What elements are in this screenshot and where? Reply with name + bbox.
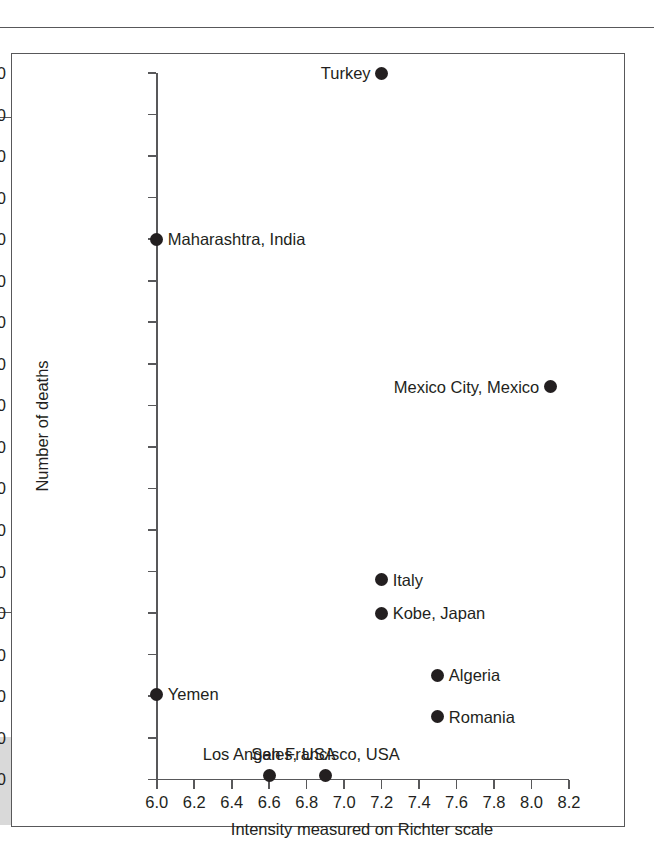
- x-axis-tick-label: 8.2: [558, 793, 581, 812]
- x-axis-tick: [418, 780, 420, 789]
- y-axis-tick-label: 4000: [0, 604, 12, 623]
- y-axis-tick-label: 3000: [0, 645, 12, 664]
- y-axis-tick-label: 2000: [0, 687, 12, 706]
- scatter-point-label: Maharashtra, India: [168, 230, 306, 249]
- x-axis-tick: [231, 780, 233, 789]
- scatter-point-label: Mexico City, Mexico: [394, 377, 539, 396]
- y-axis-tick: [148, 654, 156, 656]
- scatter-point-marker: [319, 769, 332, 782]
- y-axis-tick-label: 16 000: [0, 105, 12, 124]
- plot-area: 010002000300040005000600070008000900010 …: [12, 54, 624, 826]
- x-axis-tick-label: 6.0: [145, 793, 168, 812]
- y-axis-tick: [148, 280, 156, 282]
- y-axis-tick: [148, 321, 156, 323]
- scatter-point-marker: [431, 710, 444, 723]
- x-axis-tick: [306, 780, 308, 789]
- y-axis-tick-label: 0: [0, 770, 12, 789]
- y-axis-tick: [148, 612, 156, 614]
- scatter-point-label: Italy: [393, 570, 423, 589]
- scatter-point-label: Algeria: [449, 666, 500, 685]
- y-axis-tick-label: 14 000: [0, 188, 12, 207]
- y-axis-tick-label: 5000: [0, 562, 12, 581]
- x-axis-tick: [456, 780, 458, 789]
- scatter-point-label: Romania: [449, 707, 515, 726]
- x-axis-tick: [343, 780, 345, 789]
- page-root: 010002000300040005000600070008000900010 …: [0, 0, 654, 865]
- x-axis-tick: [568, 780, 570, 789]
- y-axis-tick: [148, 737, 156, 739]
- y-axis-tick: [148, 405, 156, 407]
- y-axis-tick-label: 17 000: [0, 64, 12, 83]
- scatter-point-marker: [431, 669, 444, 682]
- y-axis-tick-label: 7000: [0, 479, 12, 498]
- y-axis-tick: [148, 529, 156, 531]
- x-axis-tick-label: 6.4: [220, 793, 243, 812]
- x-axis-tick: [193, 780, 195, 789]
- y-axis-tick: [148, 155, 156, 157]
- scatter-point-marker: [263, 769, 276, 782]
- scatter-point-label: Kobe, Japan: [393, 604, 486, 623]
- scatter-point-marker: [150, 688, 163, 701]
- x-axis-tick-label: 8.0: [520, 793, 543, 812]
- x-axis-tick: [381, 780, 383, 789]
- y-axis-tick: [148, 363, 156, 365]
- y-axis-tick-label: 6000: [0, 521, 12, 540]
- scatter-point-label: San Francisco, USA: [251, 745, 400, 764]
- x-axis-tick-label: 6.2: [183, 793, 206, 812]
- scatter-point-marker: [150, 233, 163, 246]
- y-axis-tick: [148, 571, 156, 573]
- x-axis-tick-label: 7.0: [333, 793, 356, 812]
- y-axis-line: [156, 73, 158, 780]
- y-axis-tick: [148, 114, 156, 116]
- scatter-point-marker: [375, 67, 388, 80]
- x-axis-line: [156, 779, 569, 781]
- x-axis-tick-label: 7.6: [445, 793, 468, 812]
- y-axis-tick: [148, 72, 156, 74]
- y-axis-tick-label: 1000: [0, 728, 12, 747]
- y-axis-tick: [148, 779, 156, 781]
- x-axis-tick-label: 6.8: [295, 793, 318, 812]
- x-axis-tick-label: 7.2: [370, 793, 393, 812]
- x-axis-tick: [156, 780, 158, 789]
- scatter-chart-frame: 010002000300040005000600070008000900010 …: [11, 53, 625, 827]
- y-axis-title: Number of deaths: [33, 360, 52, 491]
- y-axis-tick-label: 10 000: [0, 354, 12, 373]
- y-axis-tick: [148, 197, 156, 199]
- y-axis-tick-label: 11 000: [0, 313, 12, 332]
- scatter-point-label: Yemen: [168, 685, 219, 704]
- page-top-rule: [0, 27, 654, 28]
- scatter-point-marker: [544, 380, 557, 393]
- x-axis-tick-label: 7.8: [483, 793, 506, 812]
- x-axis-tick: [531, 780, 533, 789]
- x-axis-tick: [493, 780, 495, 789]
- scatter-point-marker: [375, 607, 388, 620]
- x-axis-tick-label: 6.6: [258, 793, 281, 812]
- y-axis-tick-label: 9000: [0, 396, 12, 415]
- scatter-point-label: Turkey: [321, 64, 371, 83]
- y-axis-tick: [148, 488, 156, 490]
- x-axis-tick-label: 7.4: [408, 793, 431, 812]
- y-axis-tick-label: 12 000: [0, 271, 12, 290]
- y-axis-tick-label: 15 000: [0, 147, 12, 166]
- y-axis-tick: [148, 446, 156, 448]
- y-axis-tick-label: 8000: [0, 437, 12, 456]
- x-axis-title: Intensity measured on Richter scale: [231, 820, 493, 839]
- y-axis-tick-label: 13 000: [0, 230, 12, 249]
- scatter-point-marker: [375, 573, 388, 586]
